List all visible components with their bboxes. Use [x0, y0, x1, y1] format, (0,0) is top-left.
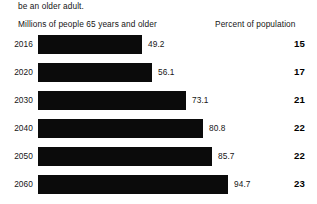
row-year-label: 2020: [0, 67, 33, 77]
row-year-label: 2040: [0, 123, 33, 133]
chart-row: 206094.723: [0, 174, 317, 202]
row-value-label: 56.1: [158, 67, 175, 77]
row-bar: [38, 35, 142, 54]
row-value-label: 80.8: [209, 123, 226, 133]
row-bar: [38, 119, 203, 138]
column-header-percent: Percent of population: [215, 19, 296, 30]
chart-row: 202056.117: [0, 62, 317, 90]
row-bar: [38, 175, 228, 194]
row-percent-value: 22: [262, 150, 305, 161]
row-percent-value: 23: [262, 178, 305, 189]
column-header-millions: Millions of people 65 years and older: [18, 19, 157, 30]
row-year-label: 2050: [0, 151, 33, 161]
row-year-label: 2060: [0, 179, 33, 189]
chart-row: 203073.121: [0, 90, 317, 118]
chart-row: 201649.215: [0, 34, 317, 62]
row-bar: [38, 63, 152, 82]
row-value-label: 73.1: [192, 95, 209, 105]
row-percent-value: 15: [262, 38, 305, 49]
row-percent-value: 21: [262, 94, 305, 105]
row-year-label: 2016: [0, 39, 33, 49]
chart-row: 204080.822: [0, 118, 317, 146]
row-value-label: 49.2: [148, 39, 165, 49]
row-bar: [38, 147, 212, 166]
chart-page: be an older adult. Millions of people 65…: [0, 0, 317, 204]
chart-rows: 201649.215202056.117203073.121204080.822…: [0, 34, 317, 202]
row-percent-value: 22: [262, 122, 305, 133]
chart-row: 205085.722: [0, 146, 317, 174]
row-percent-value: 17: [262, 66, 305, 77]
row-year-label: 2030: [0, 95, 33, 105]
row-value-label: 94.7: [234, 179, 251, 189]
intro-text-fragment: be an older adult.: [18, 1, 84, 11]
row-value-label: 85.7: [218, 151, 235, 161]
row-bar: [38, 91, 186, 110]
